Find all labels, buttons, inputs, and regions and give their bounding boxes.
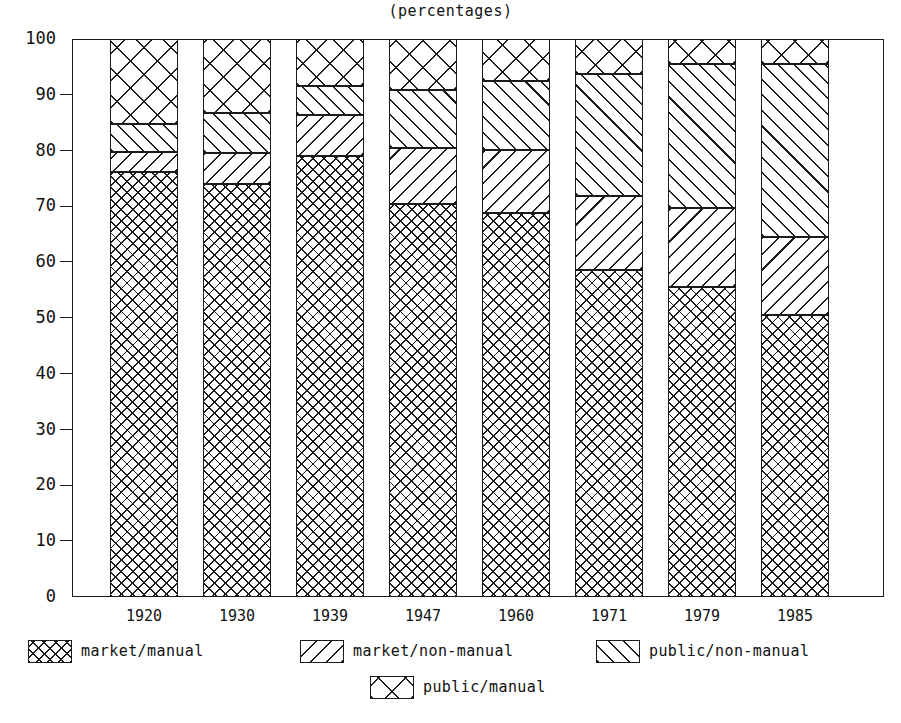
y-axis-label-0: 0	[0, 588, 56, 605]
bar-segment-1920-market-manual[interactable]	[110, 172, 178, 597]
legend-swatch-dense-crosshatch-icon	[28, 640, 72, 663]
bar-segment-1960-public-non-manual[interactable]	[482, 81, 550, 150]
bar-segment-1960-public-manual[interactable]	[482, 39, 550, 81]
bar-segment-1920-public-non-manual[interactable]	[110, 124, 178, 152]
x-axis-label-1985: 1985	[750, 609, 840, 624]
bar-1979[interactable]	[668, 39, 736, 597]
legend-swatch-open-crosshatch-icon	[370, 676, 414, 699]
bar-1947[interactable]	[389, 39, 457, 597]
legend-label: market/manual	[81, 644, 204, 659]
bar-1960[interactable]	[482, 39, 550, 597]
bar-1930[interactable]	[203, 39, 271, 597]
bar-segment-1930-market-manual[interactable]	[203, 184, 271, 597]
y-axis-label-90: 90	[0, 86, 56, 103]
bar-segment-1947-market-manual[interactable]	[389, 204, 457, 597]
legend-item-market-manual[interactable]: market/manual	[28, 640, 204, 663]
bar-segment-1960-market-manual[interactable]	[482, 213, 550, 597]
bar-1985[interactable]	[761, 39, 829, 597]
legend-item-market-non-manual[interactable]: market/non-manual	[300, 640, 513, 663]
bar-segment-1985-market-manual[interactable]	[761, 315, 829, 597]
y-axis-label-100: 100	[0, 30, 56, 47]
bar-segment-1947-market-non-manual[interactable]	[389, 148, 457, 204]
bar-segment-1971-public-non-manual[interactable]	[575, 74, 643, 196]
bar-1971[interactable]	[575, 39, 643, 597]
legend-label: public/non-manual	[649, 644, 809, 659]
bar-segment-1985-public-manual[interactable]	[761, 39, 829, 64]
y-axis-label-10: 10	[0, 532, 56, 549]
x-axis-label-1960: 1960	[471, 609, 561, 624]
bar-segment-1939-public-manual[interactable]	[296, 39, 364, 86]
bar-segment-1920-market-non-manual[interactable]	[110, 152, 178, 172]
legend-item-public-manual[interactable]: public/manual	[370, 676, 546, 699]
legend-swatch-forwardslash-hatch-icon	[596, 640, 640, 663]
y-axis-label-60: 60	[0, 253, 56, 270]
bar-segment-1930-public-non-manual[interactable]	[203, 113, 271, 154]
x-axis-label-1939: 1939	[285, 609, 375, 624]
x-axis-label-1947: 1947	[378, 609, 468, 624]
chart-legend: market/manualmarket/non-manualpublic/non…	[0, 636, 901, 723]
bar-segment-1979-public-non-manual[interactable]	[668, 64, 736, 208]
bar-segment-1979-market-manual[interactable]	[668, 287, 736, 597]
y-axis-label-50: 50	[0, 309, 56, 326]
bar-segment-1971-market-manual[interactable]	[575, 270, 643, 597]
bar-segment-1930-public-manual[interactable]	[203, 39, 271, 113]
bar-segment-1971-public-manual[interactable]	[575, 39, 643, 74]
y-axis-label-30: 30	[0, 421, 56, 438]
bar-1920[interactable]	[110, 39, 178, 597]
bar-segment-1930-market-non-manual[interactable]	[203, 153, 271, 184]
legend-label: public/manual	[423, 680, 546, 695]
y-axis-label-40: 40	[0, 365, 56, 382]
stacked-bar-chart: (percentages) 1009080706050403020100 192…	[0, 0, 901, 723]
y-axis-label-80: 80	[0, 142, 56, 159]
bar-segment-1939-market-manual[interactable]	[296, 156, 364, 597]
bar-segment-1985-public-non-manual[interactable]	[761, 64, 829, 237]
chart-title: (percentages)	[0, 2, 901, 20]
bar-1939[interactable]	[296, 39, 364, 597]
legend-item-public-non-manual[interactable]: public/non-manual	[596, 640, 809, 663]
legend-swatch-backslash-hatch-icon	[300, 640, 344, 663]
bar-segment-1979-market-non-manual[interactable]	[668, 208, 736, 287]
x-axis-label-1930: 1930	[192, 609, 282, 624]
x-axis-label-1920: 1920	[99, 609, 189, 624]
bar-segment-1947-public-non-manual[interactable]	[389, 90, 457, 147]
bar-segment-1960-market-non-manual[interactable]	[482, 150, 550, 213]
bar-segment-1939-public-non-manual[interactable]	[296, 86, 364, 114]
y-axis-label-20: 20	[0, 476, 56, 493]
bar-segment-1939-market-non-manual[interactable]	[296, 115, 364, 156]
bar-segment-1971-market-non-manual[interactable]	[575, 196, 643, 270]
y-axis-label-70: 70	[0, 197, 56, 214]
bar-segment-1920-public-manual[interactable]	[110, 39, 178, 124]
bar-segment-1979-public-manual[interactable]	[668, 39, 736, 64]
x-axis-label-1979: 1979	[657, 609, 747, 624]
x-axis-label-1971: 1971	[564, 609, 654, 624]
legend-label: market/non-manual	[353, 644, 513, 659]
bar-segment-1985-market-non-manual[interactable]	[761, 237, 829, 315]
bar-segment-1947-public-manual[interactable]	[389, 39, 457, 90]
